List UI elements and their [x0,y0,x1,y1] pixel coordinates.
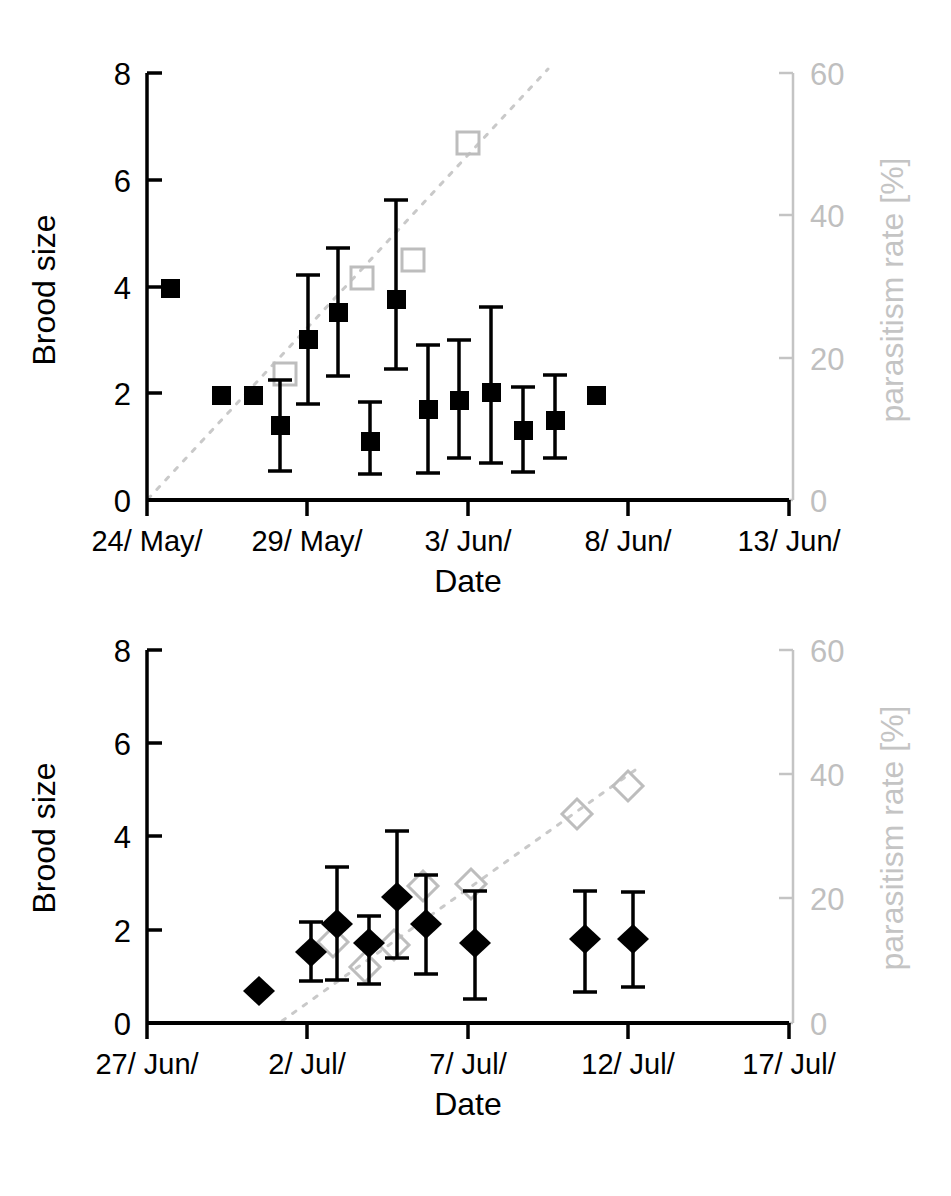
data-markers-bottom [243,831,649,1006]
y2-tick-label-0: 0 [810,1007,827,1042]
x-tick-label-bottom-1: 2/ Jul/ [268,1048,346,1080]
open-square-marker [457,132,479,154]
data-point [479,307,503,463]
x-tick-label-top-3: 8/ Jun/ [584,525,672,557]
data-point [268,380,292,471]
left-axis-bottom [147,650,162,1023]
data-point [569,891,601,992]
open-diamond-marker [456,869,486,899]
data-point [321,867,353,980]
y-tick-label-4: 4 [114,271,131,306]
data-point [326,248,350,376]
data-point [296,275,320,404]
y2-tick-label-40: 40 [810,758,844,793]
right-axis-bottom [779,650,793,1023]
data-point [244,386,263,405]
x-axis-title-top: Date [434,563,502,596]
figure-container: 60 40 20 0 parasitism rate [%] 8 6 4 2 0… [0,0,951,1196]
trendline-top [148,69,548,499]
data-markers-top [161,200,606,474]
open-diamond-marker [613,771,643,801]
y2-tick-label-0: 0 [810,484,827,519]
open-square-marker [402,249,424,271]
y-tick-label-8: 8 [114,57,131,92]
open-diamond-marker [562,799,592,829]
x-tick-label-bottom-3: 12/ Jul/ [581,1048,675,1080]
y-tick-label-2: 2 [114,914,131,949]
data-point [617,892,649,987]
chart-svg-bottom: 60 40 20 0 parasitism rate [%] 8 6 4 2 0… [0,596,951,1196]
chart-panel-top: 60 40 20 0 parasitism rate [%] 8 6 4 2 0… [0,0,951,596]
y-tick-label-6: 6 [114,164,131,199]
y-tick-label-4: 4 [114,820,131,855]
y-tick-label-8: 8 [114,634,131,669]
y2-tick-label-20: 20 [810,882,844,917]
y2-axis-title-bottom: parasitism rate [%] [874,706,910,971]
y-axis-title-bottom: Brood size [26,762,62,913]
data-point [587,386,606,405]
data-point [543,375,567,458]
x-axis-title-bottom: Date [434,1086,502,1122]
x-tick-label-top-4: 13/ Jun/ [737,525,841,557]
data-point [416,345,440,473]
data-point [358,402,382,474]
chart-panel-bottom: 60 40 20 0 parasitism rate [%] 8 6 4 2 0… [0,596,951,1192]
x-tick-label-top-0: 24/ May/ [91,525,203,557]
y-axis-title-top: Brood size [26,214,62,365]
open-diamond-marker [350,952,380,982]
data-point [161,279,180,298]
y-tick-label-6: 6 [114,727,131,762]
data-point [295,922,327,981]
open-diamond-marker [379,930,409,960]
y2-tick-label-40: 40 [810,199,844,234]
x-tick-label-top-1: 29/ May/ [251,525,363,557]
x-axis-top [147,500,789,516]
data-point [511,387,535,472]
y2-tick-label-20: 20 [810,342,844,377]
chart-svg-top: 60 40 20 0 parasitism rate [%] 8 6 4 2 0… [0,0,951,596]
y2-axis-title-top: parasitism rate [%] [874,158,910,423]
data-point [384,200,408,369]
data-point [410,875,442,974]
data-point [459,891,491,999]
left-axis-top [147,73,162,500]
x-tick-label-bottom-4: 17/ Jul/ [742,1048,836,1080]
y2-tick-label-60: 60 [810,634,844,669]
y-tick-label-0: 0 [114,1007,131,1042]
data-point [243,976,275,1006]
x-tick-label-top-2: 3/ Jun/ [424,525,512,557]
x-axis-bottom [147,1023,789,1039]
y2-tick-label-60: 60 [810,57,844,92]
data-point [212,386,231,405]
y-tick-label-2: 2 [114,377,131,412]
y-tick-label-0: 0 [114,484,131,519]
data-point [447,340,471,458]
x-tick-label-bottom-2: 7/ Jul/ [429,1048,507,1080]
right-axis-top [779,73,793,500]
x-tick-label-bottom-0: 27/ Jun/ [95,1048,199,1080]
